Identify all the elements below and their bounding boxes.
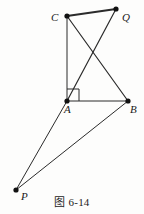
segment-PB [16,101,128,190]
segments-group [16,9,128,190]
vertex-label-q: Q [122,12,130,23]
vertex-label-c: C [51,12,58,23]
vertex-label-a: A [64,104,71,115]
segment-AQ [67,9,116,101]
geometry-canvas [0,0,144,214]
vertex-dot-p [13,187,18,192]
segment-PA [16,101,67,190]
vertex-dot-q [113,6,118,11]
vertex-label-b: B [130,104,137,115]
figure-caption: 图 6-14 [0,196,144,209]
geometry-figure: C Q A B P 图 6-14 [0,0,144,214]
segment-CB [67,16,128,101]
segment-CQ [67,9,116,16]
vertex-dot-c [64,13,69,18]
